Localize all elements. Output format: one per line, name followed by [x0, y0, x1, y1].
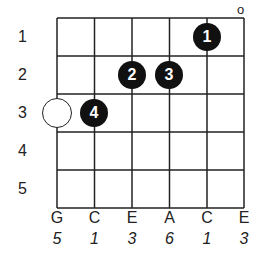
fret-label-4: 4	[18, 142, 38, 160]
finger-dot-2: 2	[118, 61, 146, 89]
open-string-marker: o	[237, 2, 244, 17]
string-name-6: E	[234, 209, 254, 227]
fret-label-1: 1	[18, 28, 38, 46]
finger-number-6: 3	[234, 230, 254, 248]
finger-dot-3: 3	[155, 61, 183, 89]
fret-label-5: 5	[18, 180, 38, 198]
open-ring-marker	[42, 98, 72, 128]
finger-number-3: 3	[122, 230, 142, 248]
finger-number-1: 5	[47, 230, 67, 248]
fret-label-3: 3	[18, 104, 38, 122]
string-name-4: A	[160, 209, 180, 227]
finger-dot-4: 4	[80, 99, 108, 127]
fret-label-2: 2	[18, 66, 38, 84]
finger-number-5: 1	[197, 230, 217, 248]
finger-number-2: 1	[85, 230, 105, 248]
string-name-5: C	[197, 209, 217, 227]
finger-number-4: 6	[160, 230, 180, 248]
string-name-2: C	[85, 209, 105, 227]
finger-dot-1: 1	[193, 23, 221, 51]
string-name-3: E	[122, 209, 142, 227]
string-name-1: G	[47, 209, 67, 227]
chord-diagram: 1 2 3 4 5 o 1 2 3 4 G C E A C E 5 1 3 6 …	[0, 0, 270, 272]
